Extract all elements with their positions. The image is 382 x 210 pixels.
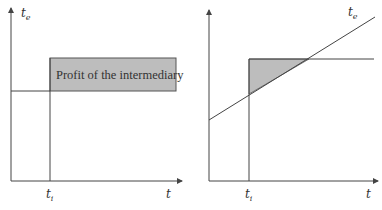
diagram-canvas: Profit of the intermediary te ti t te ti… (0, 0, 382, 210)
right-ti-label: ti (245, 187, 253, 203)
te-diagonal-line (209, 17, 375, 120)
left-diagram: Profit of the intermediary te ti t (11, 6, 184, 203)
right-t-label: t (366, 187, 371, 201)
left-te-label: te (21, 6, 31, 22)
left-ti-label: ti (46, 187, 54, 203)
profit-label: Profit of the intermediary (56, 68, 184, 82)
right-diagram: te ti t (209, 5, 378, 203)
left-t-label: t (166, 187, 171, 201)
right-te-label: te (348, 5, 358, 21)
